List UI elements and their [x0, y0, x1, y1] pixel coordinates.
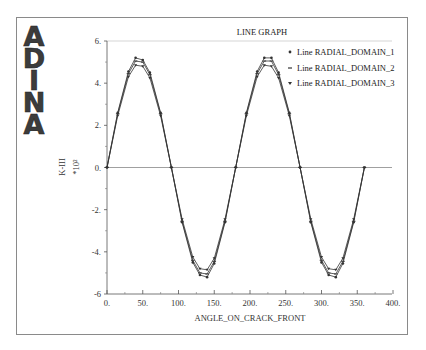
data-point-marker — [270, 65, 273, 68]
legend-label: Line RADIAL_DOMAIN_3 — [297, 78, 395, 88]
data-point-marker — [270, 57, 273, 60]
data-point-marker — [134, 57, 137, 60]
legend-item-2: Line RADIAL_DOMAIN_2 — [288, 63, 395, 73]
legend-label: Line RADIAL_DOMAIN_2 — [297, 63, 395, 73]
x-tick-label: 300. — [314, 298, 329, 308]
x-tick-label: 250. — [278, 298, 293, 308]
x-tick-label: 150. — [207, 298, 222, 308]
data-point-marker — [223, 218, 226, 221]
y-tick-label: 0. — [95, 163, 101, 173]
legend-item-1: Line RADIAL_DOMAIN_1 — [289, 47, 395, 57]
data-point-marker — [263, 57, 266, 60]
x-tick-label: 0. — [104, 298, 110, 308]
y-tick-label: 6. — [95, 36, 101, 46]
x-ticks: 0.50.100.150.200.250.300.350.400. — [104, 290, 401, 308]
x-tick-label: 50. — [137, 298, 148, 308]
legend-item-3: Line RADIAL_DOMAIN_3 — [288, 78, 395, 88]
triangle-marker-icon — [288, 82, 292, 85]
data-point-marker — [180, 218, 183, 221]
data-point-marker — [352, 218, 355, 221]
y-tick-label: -2. — [92, 205, 101, 215]
data-point-marker — [206, 276, 209, 279]
y-tick-label: 4. — [95, 78, 101, 88]
data-point-marker — [141, 59, 144, 62]
y-tick-label: -6 — [94, 289, 101, 299]
data-point-marker — [199, 274, 202, 277]
x-tick-label: 400. — [386, 298, 401, 308]
y-scale-label: *10² — [71, 159, 81, 175]
x-tick-label: 200. — [243, 298, 258, 308]
x-tick-label: 350. — [350, 298, 365, 308]
x-axis-label: ANGLE_ON_CRACK_FRONT — [195, 313, 307, 323]
data-point-marker — [309, 218, 312, 221]
data-point-marker — [327, 274, 330, 277]
legend-label: Line RADIAL_DOMAIN_1 — [297, 47, 395, 57]
x-tick-label: 100. — [171, 298, 186, 308]
line-chart: LINE GRAPH 6.4.2.0.-2.-4.-6 0.50.100.150… — [0, 0, 426, 350]
legend: Line RADIAL_DOMAIN_1 Line RADIAL_DOMAIN_… — [288, 47, 395, 88]
y-axis-label: K-III — [57, 158, 67, 176]
chart-title: LINE GRAPH — [237, 27, 287, 37]
y-tick-label: -4. — [92, 247, 101, 257]
y-tick-label: 2. — [95, 120, 101, 130]
data-point-marker — [335, 276, 338, 279]
y-ticks: 6.4.2.0.-2.-4.-6 — [92, 36, 107, 299]
circle-marker-icon — [289, 51, 292, 54]
